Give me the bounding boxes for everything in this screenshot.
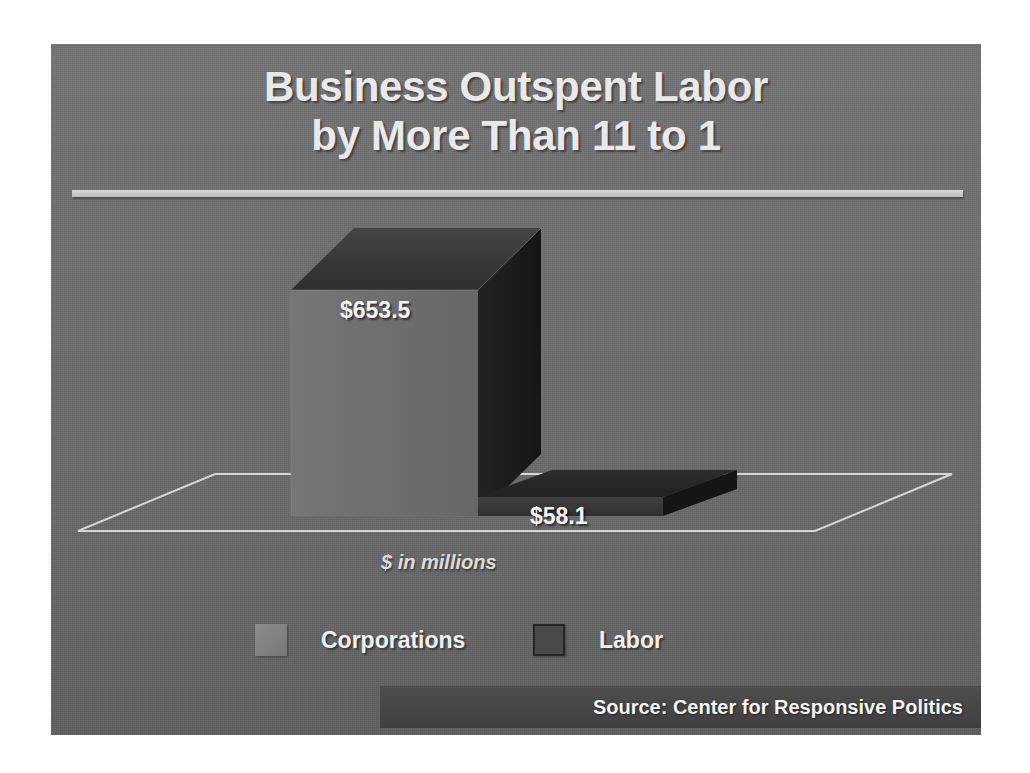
bar-value-label-labor: $58.1 [530,503,588,530]
presentation-slide: Business Outspent Labor by More Than 11 … [51,44,981,735]
bar-value-label-corporations: $653.5 [340,297,410,324]
chart-legend: Corporations Labor [51,624,981,680]
source-note: Source: Center for Responsive Politics [593,696,981,719]
source-band: Source: Center for Responsive Politics [380,686,981,728]
legend-item-corporations[interactable]: Corporations [255,624,465,656]
units-note: $ in millions [381,551,497,574]
legend-swatch-corporations-icon [255,624,287,656]
legend-item-labor[interactable]: Labor [533,624,663,656]
legend-label-corporations: Corporations [321,627,465,654]
legend-label-labor: Labor [599,627,663,654]
legend-swatch-labor-icon [533,624,565,656]
slide-page: Business Outspent Labor by More Than 11 … [0,0,1030,773]
bar-corporations [291,228,541,516]
